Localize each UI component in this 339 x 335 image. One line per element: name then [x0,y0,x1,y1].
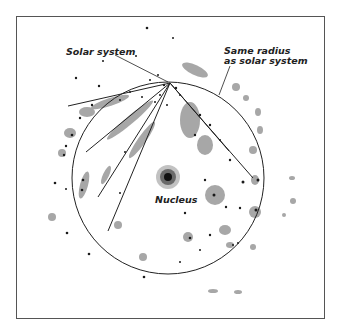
solar-system-label: Solar system [66,47,135,57]
same-radius-label: Same radius as solar system [224,46,308,66]
nucleus-label: Nucleus [155,195,197,205]
nucleus-shape [156,165,180,189]
